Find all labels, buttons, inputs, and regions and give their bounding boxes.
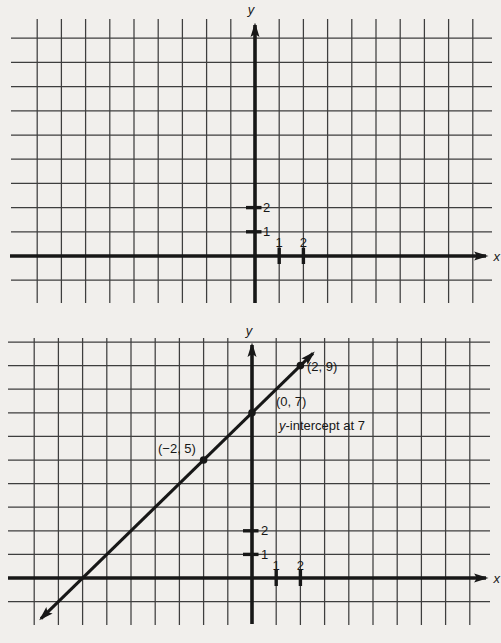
y-tick-label-2: 2 xyxy=(263,200,270,215)
point-label-2-9: (2, 9) xyxy=(307,359,337,374)
y-axis-label: y xyxy=(247,2,256,17)
data-point xyxy=(297,362,305,370)
x-tick-label-1: 1 xyxy=(273,558,280,573)
data-point xyxy=(200,456,208,464)
x-axis-label: x xyxy=(493,571,501,586)
grid-lines xyxy=(11,19,492,303)
y-axis-label: y xyxy=(245,323,254,338)
bottom-coordinate-grid: x y 2 1 1 2 (2, 9) (0, 7) (−2, 5) y-inte… xyxy=(0,318,501,643)
x-tick-label-1: 1 xyxy=(276,235,283,250)
data-point xyxy=(248,409,256,417)
textbook-figure-page: x y 2 1 1 2 x y 2 1 1 2 (2, 9) (0, 7) (−… xyxy=(0,0,501,643)
x-tick-label-2: 2 xyxy=(300,235,307,250)
annotation-text: -intercept at 7 xyxy=(286,418,366,433)
axes xyxy=(10,25,486,303)
y-intercept-annotation: y-intercept at 7 xyxy=(278,418,365,433)
y-tick-label-2: 2 xyxy=(261,523,268,538)
x-axis-label: x xyxy=(493,249,501,264)
y-tick-label-1: 1 xyxy=(263,224,270,239)
x-tick-label-2: 2 xyxy=(297,558,304,573)
point-label-neg2-5: (−2, 5) xyxy=(158,441,196,456)
top-coordinate-grid: x y 2 1 1 2 xyxy=(0,0,501,318)
y-tick-label-1: 1 xyxy=(261,547,268,562)
point-label-0-7: (0, 7) xyxy=(276,394,306,409)
